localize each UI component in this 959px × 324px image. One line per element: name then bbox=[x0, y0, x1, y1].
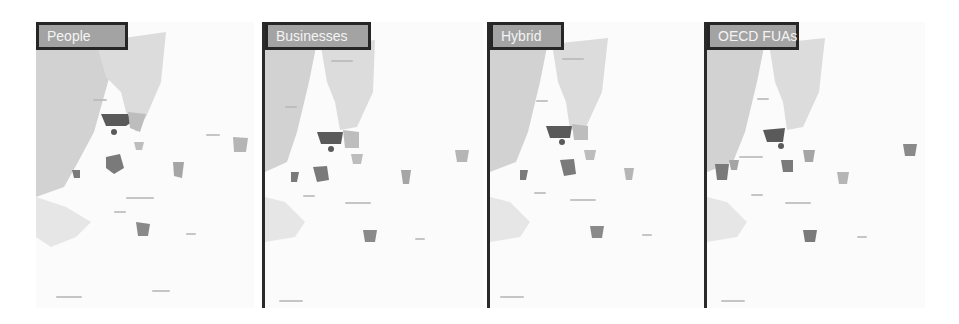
place-label bbox=[562, 58, 584, 60]
panel-title: People bbox=[36, 22, 128, 50]
place-label bbox=[415, 238, 425, 240]
place-label bbox=[785, 202, 811, 204]
place-label bbox=[152, 290, 170, 292]
map bbox=[265, 22, 483, 308]
panel-title: Businesses bbox=[265, 22, 371, 50]
place-label bbox=[642, 234, 652, 236]
map bbox=[707, 22, 925, 308]
panel-title: Hybrid bbox=[490, 22, 564, 50]
place-label bbox=[285, 106, 297, 108]
place-label bbox=[757, 98, 769, 100]
place-label bbox=[345, 202, 371, 204]
map bbox=[36, 22, 254, 308]
place-label bbox=[56, 296, 82, 298]
place-label bbox=[206, 134, 220, 136]
place-label bbox=[739, 156, 763, 158]
place-label bbox=[126, 197, 154, 199]
place-label bbox=[857, 236, 867, 238]
panel-title: OECD FUAs bbox=[707, 22, 799, 50]
place-label bbox=[534, 192, 546, 194]
map-panel-oecd-fuas: OECD FUAs bbox=[704, 22, 925, 308]
place-label bbox=[500, 296, 524, 298]
place-label bbox=[536, 100, 548, 102]
place-label bbox=[303, 195, 315, 197]
map-panel-hybrid: Hybrid bbox=[487, 22, 708, 308]
place-label bbox=[279, 300, 303, 302]
place-label bbox=[721, 300, 745, 302]
place-label bbox=[93, 99, 107, 101]
map-panel-people: People bbox=[36, 22, 254, 308]
map-panel-businesses: Businesses bbox=[262, 22, 483, 308]
map bbox=[490, 22, 708, 308]
place-label bbox=[114, 211, 126, 213]
place-label bbox=[570, 199, 596, 201]
place-label bbox=[186, 233, 196, 235]
place-label bbox=[331, 60, 353, 62]
place-label bbox=[751, 194, 763, 196]
